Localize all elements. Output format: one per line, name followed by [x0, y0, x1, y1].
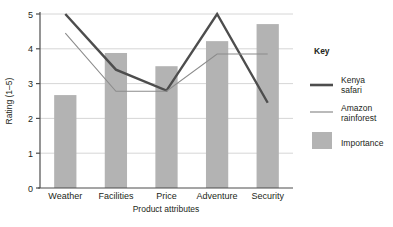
y-tick-label-4: 4 [28, 44, 33, 54]
y-tick-label-0: 0 [28, 184, 33, 194]
bar-security [257, 24, 279, 188]
legend-label-kenya-line1: Kenya [341, 75, 365, 85]
x-tick-labels: WeatherFacilitiesPriceAdventureSecurity [48, 191, 284, 201]
legend-label-kenya-line2: safari [341, 85, 362, 95]
y-tick-label-3: 3 [28, 79, 33, 89]
line-series-group [65, 14, 267, 103]
x-tick-label-price: Price [156, 191, 177, 201]
legend-item-importance[interactable]: Importance [312, 132, 384, 149]
legend-item-amazon-rainforest[interactable]: Amazon rainforest [310, 103, 377, 123]
rating-importance-chart: 5 4 3 2 1 0 Rating (1–5) WeatherFaciliti… [0, 0, 393, 227]
x-tick-label-security: Security [251, 191, 284, 201]
bar-price [155, 66, 177, 188]
x-tick-label-facilities: Facilities [98, 191, 134, 201]
legend-title: Key [314, 46, 330, 56]
y-tick-label-5: 5 [28, 10, 33, 20]
line-kenya-safari [65, 14, 267, 103]
legend-label-importance: Importance [341, 138, 384, 148]
bar-swatch-icon [312, 132, 332, 149]
y-axis-title: Rating (1–5) [4, 77, 14, 124]
bar-adventure [206, 41, 228, 188]
x-tick-label-weather: Weather [48, 191, 82, 201]
bar-weather [54, 95, 76, 188]
legend-item-kenya-safari[interactable]: Kenya safari [310, 75, 365, 95]
legend: Key Kenya safari Amazon rainforest Impor… [310, 46, 384, 149]
legend-label-amazon-line1: Amazon [341, 103, 372, 113]
legend-label-amazon-line2: rainforest [341, 113, 377, 123]
x-axis-title: Product attributes [133, 204, 200, 214]
y-tick-label-2: 2 [28, 114, 33, 124]
chart-container: 5 4 3 2 1 0 Rating (1–5) WeatherFaciliti… [0, 0, 393, 227]
x-tick-label-adventure: Adventure [197, 191, 238, 201]
y-tick-label-1: 1 [28, 149, 33, 159]
